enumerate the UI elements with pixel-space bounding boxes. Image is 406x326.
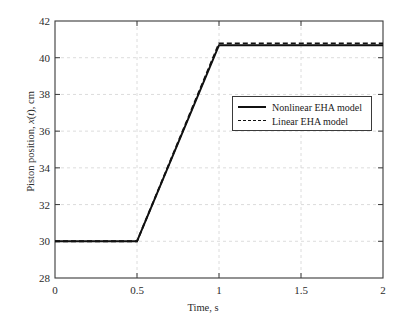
y-axis-title: Piston position, x(t), cm xyxy=(25,27,36,257)
y-axis-title-var-t: t xyxy=(25,113,36,116)
plot-canvas xyxy=(0,0,406,326)
chart-figure: 2830323436384042 00.511.52 Time, s Pisto… xyxy=(0,0,406,326)
y-axis-title-var-x: x xyxy=(25,119,36,124)
x-tick-label: 2 xyxy=(380,285,386,296)
gridlines-group xyxy=(55,21,383,278)
chart-legend: Nonlinear EHA model Linear EHA model xyxy=(232,96,372,131)
legend-item-nonlinear: Nonlinear EHA model xyxy=(237,100,367,114)
y-axis-title-suffix: ), cm xyxy=(25,91,36,113)
y-axis-title-prefix: Piston position, xyxy=(25,124,36,192)
x-tick-label: 0.5 xyxy=(130,285,144,296)
y-tick-label: 42 xyxy=(26,16,50,27)
legend-item-linear: Linear EHA model xyxy=(237,114,367,128)
x-axis-title: Time, s xyxy=(0,302,406,313)
x-tick-label: 1.5 xyxy=(294,285,308,296)
y-tick-label: 28 xyxy=(26,273,50,284)
y-axis-title-paren-open: ( xyxy=(25,116,36,120)
legend-label-nonlinear: Nonlinear EHA model xyxy=(272,102,362,113)
x-tick-label: 1 xyxy=(216,285,222,296)
legend-swatch-solid-line xyxy=(237,102,267,112)
legend-label-linear: Linear EHA model xyxy=(272,116,348,127)
x-tick-label: 0 xyxy=(52,285,58,296)
legend-swatch-dashed-line xyxy=(237,116,267,126)
